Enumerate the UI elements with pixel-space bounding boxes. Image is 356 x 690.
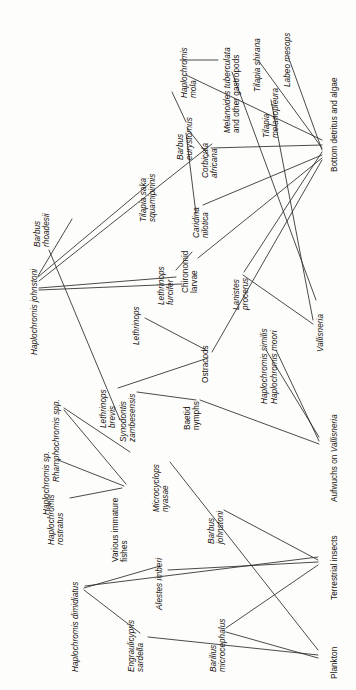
node-label-lethrinops_brevis[interactable]: Lethrinopsbrevis (99, 389, 117, 428)
node-label-line: Lethrinops (132, 306, 141, 345)
food-web-link (212, 160, 322, 352)
food-web-link (39, 277, 176, 288)
node-label-line: Barbus (176, 117, 185, 160)
food-web-link (137, 392, 196, 400)
node-label-alestes_imberi[interactable]: Alestes imberi (155, 558, 164, 610)
food-web-link (211, 145, 322, 148)
food-web-links-layer (0, 0, 356, 690)
food-web-link (118, 358, 208, 388)
node-label-line: Haplochromis johnstoni (30, 269, 39, 355)
node-label-line: nilotica (201, 207, 210, 238)
node-label-aufwuchs_on_vallisneria[interactable]: Aufwuchs on Vallisneria (330, 414, 339, 502)
node-label-line: Tilapia saka (139, 174, 148, 222)
food-web-link (170, 462, 318, 650)
node-label-lanistes_procerus[interactable]: Lanistesprocerus (232, 278, 250, 310)
node-label-line: Plankton (330, 647, 339, 679)
food-web-link (58, 460, 124, 486)
node-label-line: Haplochromis similis (260, 328, 269, 404)
node-label-haplochromis_moori[interactable]: Haplochromis moori (270, 330, 279, 404)
node-label-line: Microcyclops (152, 464, 161, 512)
node-label-line: africana (210, 143, 219, 178)
node-label-barilius_microcephalus[interactable]: Bariliusmicrocephalus (209, 619, 227, 672)
node-label-haplochromis_similis[interactable]: Haplochromis similis (260, 328, 269, 404)
node-label-line: Synodontis (119, 394, 128, 442)
node-label-line: and other gastropods (232, 47, 241, 133)
food-web-link (226, 565, 318, 628)
node-label-bottom_detritus_and_algae[interactable]: Bottom detritus and algae (330, 77, 339, 172)
node-label-line: Various immature (111, 498, 120, 562)
node-label-various_immature_fishes[interactable]: Various immaturefishes (111, 498, 129, 562)
node-label-line: Tilapia (262, 88, 271, 138)
node-label-line: eurystomus (185, 117, 194, 160)
node-label-rhamphochromis_spp[interactable]: Rhamphochromis spp. (52, 399, 61, 482)
node-label-caridina_nilotica[interactable]: Caridinanilotica (192, 207, 210, 238)
node-label-lethrinops[interactable]: Lethrinops (132, 306, 141, 345)
node-label-line: Caridina (192, 207, 201, 238)
node-label-line: fishes (120, 498, 129, 562)
node-label-line: Baetid (183, 401, 192, 430)
node-label-line: Lethrinops (157, 266, 166, 305)
node-label-line: melanopleura (271, 88, 280, 138)
node-label-line: Barilius (209, 619, 218, 672)
node-label-plankton[interactable]: Plankton (330, 647, 339, 679)
node-label-barbus_rhoadesii[interactable]: Barbusrhoadesii (33, 213, 51, 247)
node-label-tilapia_melanopleura[interactable]: Tilapiamelanopleura (262, 88, 280, 138)
node-label-line: Chironomid (181, 251, 190, 293)
node-label-barbus_johnstoni[interactable]: Barbusjohnstoni (207, 511, 225, 544)
food-web-link (145, 318, 206, 350)
node-label-chironomid_larvae[interactable]: Chironomidlarvae (181, 251, 199, 293)
node-label-line: rostratus (56, 494, 65, 545)
node-label-line: Lanistes (232, 278, 241, 310)
node-label-terrestrial_insects[interactable]: Terrestrial insects (330, 535, 339, 600)
node-label-tilapia_shirana[interactable]: Tilapia shirana (253, 38, 262, 92)
node-label-labeo_mesops[interactable]: Labeo mesops (283, 33, 292, 87)
node-label-haplochromis_mola[interactable]: Haplochromismola (180, 47, 198, 98)
node-label-haplochromis_rostratus[interactable]: Haplochromisrostratus (47, 494, 65, 545)
node-label-line: Terrestrial insects (330, 535, 339, 600)
node-label-line: Ostracods (201, 345, 210, 383)
node-label-barbus_eurystomus[interactable]: Barbuseurystomus (176, 117, 194, 160)
node-label-line: procerus (241, 278, 250, 310)
food-web-link (226, 632, 318, 658)
node-label-line: zambesensis (128, 394, 137, 442)
node-label-line: mola (189, 47, 198, 98)
node-label-synodontis_zambesensis[interactable]: Synodontiszambesensis (119, 394, 137, 442)
node-label-line: brevis (108, 389, 117, 428)
node-label-lethrinops_furcifer[interactable]: Lethrinopsfurcifer (157, 266, 175, 305)
node-label-line: Alestes imberi (155, 558, 164, 610)
node-label-vallisneria[interactable]: Vallisneria (316, 314, 325, 352)
node-label-line: Haplochromis (47, 494, 56, 545)
node-label-haplochromis_dimidiatus[interactable]: Haplochromis dimidiatus (71, 582, 80, 672)
node-label-tilapia_saka_squamipinnis[interactable]: Tilapia sakasquamipinnis (139, 174, 157, 222)
node-label-line: Engraulicypris (127, 620, 136, 672)
food-web-link (70, 488, 122, 498)
node-label-line: microcephalus (218, 619, 227, 672)
node-label-line: Aufwuchs on Vallisneria (330, 414, 339, 502)
node-label-line: Labeo mesops (283, 33, 292, 87)
node-label-line: Lethrinops (99, 389, 108, 428)
node-label-engraulicypris_sardella[interactable]: Engraulicyprissardella (127, 620, 145, 672)
node-label-line: nyasae (161, 464, 170, 512)
node-label-ostracods[interactable]: Ostracods (201, 345, 210, 383)
node-label-line: squamipinnis (148, 174, 157, 222)
food-web-link (276, 350, 319, 441)
food-web-diagram: Haplochromis johnstoniBarbusrhoadesiiRha… (0, 0, 356, 690)
node-label-line: Tilapia shirana (253, 38, 262, 92)
node-label-microcyclops_nyasae[interactable]: Microcyclopsnyasae (152, 464, 170, 512)
node-label-line: Corbicula (201, 143, 210, 178)
node-label-line: Rhamphochromis spp. (52, 399, 61, 482)
food-web-link (224, 510, 318, 560)
node-label-line: nymphs (192, 401, 201, 430)
node-label-baetid_nymphs[interactable]: Baetidnymphs (183, 401, 201, 430)
node-label-line: Haplochromis dimidiatus (71, 582, 80, 672)
node-label-line: rhoadesii (42, 213, 51, 247)
food-web-link (288, 56, 322, 150)
node-label-line: Barbus (33, 213, 42, 247)
node-label-corbicula_africana[interactable]: Corbiculaafricana (201, 143, 219, 178)
food-web-link (243, 275, 313, 324)
food-web-link (148, 637, 318, 655)
node-label-line: furcifer (166, 266, 175, 305)
node-label-line: johnstoni (216, 511, 225, 544)
node-label-haplochromis_johnstoni[interactable]: Haplochromis johnstoni (30, 269, 39, 355)
node-label-melanoides_tuberculata[interactable]: Melanoides tuberculataand other gastropo… (223, 47, 241, 133)
